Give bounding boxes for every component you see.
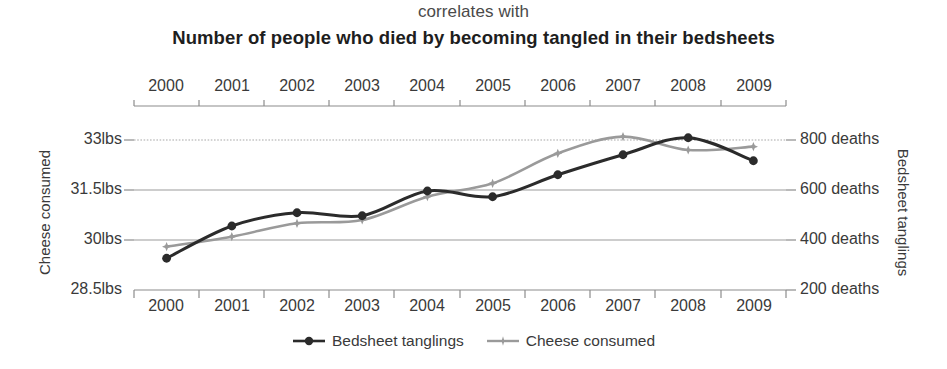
legend-label-cheese-consumed: Cheese consumed [526,332,655,350]
bottom-x-label-2006: 2006 [526,297,590,315]
left-tick-label-2: 30lbs [30,230,122,248]
series-bedsheet-tanglings [162,133,758,262]
legend-item-bedsheet-tanglings[interactable]: Bedsheet tanglings [292,332,464,350]
data-point [292,219,301,228]
bottom-x-label-2009: 2009 [722,297,786,315]
left-tick-marks [124,140,134,240]
legend-item-cheese-consumed[interactable]: Cheese consumed [486,332,655,350]
top-x-label-2001: 2001 [200,77,264,95]
chart-container: correlates with Number of people who die… [0,0,947,369]
top-x-label-2008: 2008 [656,77,720,95]
data-point [358,211,367,220]
data-point [749,156,758,165]
data-point [423,187,432,196]
data-point [162,242,171,251]
bottom-x-label-2000: 2000 [134,297,198,315]
top-x-label-2009: 2009 [722,77,786,95]
top-x-label-2004: 2004 [395,77,459,95]
bottom-x-label-2001: 2001 [200,297,264,315]
data-point [553,170,562,179]
data-point [619,150,628,159]
data-point [227,222,236,231]
bottom-x-label-2004: 2004 [395,297,459,315]
right-tick-marks [786,140,796,290]
data-point [162,254,171,263]
top-x-label-2003: 2003 [330,77,394,95]
top-x-label-2006: 2006 [526,77,590,95]
chart-legend: Bedsheet tanglings Cheese consumed [0,332,947,350]
legend-label-bedsheet-tanglings: Bedsheet tanglings [332,332,464,350]
bottom-x-label-2007: 2007 [591,297,655,315]
data-point [553,149,562,158]
top-axis [134,100,786,106]
left-tick-label-3: 28.5lbs [30,280,122,298]
right-tick-label-2: 400 deaths [800,230,920,248]
star-marker-icon [486,334,520,348]
right-tick-label-0: 800 deaths [800,130,920,148]
data-point [618,132,627,141]
bottom-x-label-2002: 2002 [265,297,329,315]
data-point [684,133,693,142]
top-x-label-2007: 2007 [591,77,655,95]
left-tick-label-1: 31.5lbs [30,180,122,198]
data-point [684,145,693,154]
bottom-x-label-2005: 2005 [461,297,525,315]
bottom-x-label-2003: 2003 [330,297,394,315]
bottom-x-label-2008: 2008 [656,297,720,315]
left-tick-label-0: 33lbs [30,130,122,148]
right-tick-label-3: 200 deaths [800,280,920,298]
data-point [488,192,497,201]
top-x-label-2005: 2005 [461,77,525,95]
data-point [749,142,758,151]
top-x-label-2002: 2002 [265,77,329,95]
top-x-label-2000: 2000 [134,77,198,95]
circle-marker-icon [292,334,326,348]
series-cheese-consumed [162,132,758,251]
data-point [293,208,302,217]
right-tick-label-1: 600 deaths [800,180,920,198]
data-point [488,179,497,188]
